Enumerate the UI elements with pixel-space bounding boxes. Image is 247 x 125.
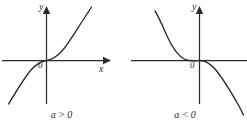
origin-label-a-positive: 0 [38,61,43,70]
chart-canvas-a-negative [123,0,247,125]
chart-panel-a-positive: y x 0 a > 0 [0,0,123,125]
x-axis-label-a-positive: x [99,64,103,74]
cubic-function-figure: y x 0 a > 0 y 0 a < 0 [0,0,247,125]
chart-panel-a-negative: y 0 a < 0 [123,0,247,125]
curve-a-positive [9,7,92,104]
caption-a-positive: a > 0 [0,110,123,120]
y-axis-label-a-negative: y [192,2,196,12]
caption-a-negative: a < 0 [123,110,247,120]
x-axis-a-positive [2,57,111,64]
y-axis-a-negative [196,6,203,104]
y-axis-label-a-positive: y [39,2,43,12]
y-axis-a-positive [43,6,50,104]
chart-canvas-a-positive [0,0,123,125]
origin-label-a-negative: 0 [190,61,195,70]
